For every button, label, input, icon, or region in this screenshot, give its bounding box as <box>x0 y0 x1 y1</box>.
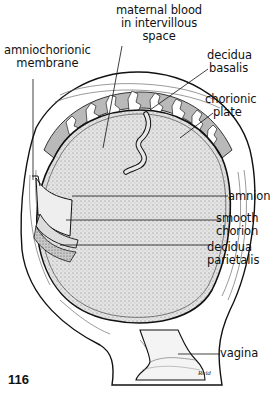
label-line: parietalis <box>207 254 259 267</box>
label-maternal-blood: maternal blood in intervillous space <box>116 4 202 43</box>
label-smooth-chorion: smooth chorion <box>216 212 258 238</box>
label-decidua-basalis: decidua basalis <box>207 49 252 75</box>
label-chorionic-plate: chorionic plate <box>205 93 257 119</box>
label-line: vagina <box>220 347 258 360</box>
label-line: amnion <box>228 190 270 203</box>
label-line: basalis <box>207 62 252 75</box>
label-line: membrane <box>4 57 91 70</box>
label-decidua-parietalis: decidua parietalis <box>207 241 259 267</box>
label-amniochorionic-membrane: amniochorionic membrane <box>4 44 91 70</box>
label-vagina: vagina <box>220 347 258 360</box>
label-line: plate <box>205 106 257 119</box>
label-amnion: amnion <box>228 190 270 203</box>
label-line: space <box>116 30 202 43</box>
artist-signature: Reid <box>198 369 211 377</box>
figure-number: 116 <box>8 372 29 387</box>
label-line: chorion <box>216 225 258 238</box>
